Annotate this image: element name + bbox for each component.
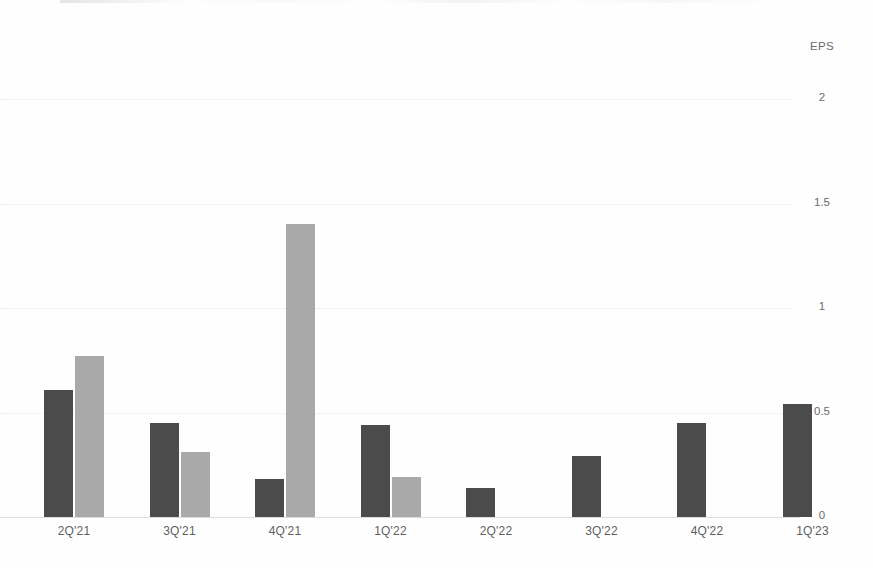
x-tick-label: 3Q'21 (135, 524, 225, 538)
x-tick-label: 3Q'22 (557, 524, 647, 538)
y-tick-label: 0.5 (800, 405, 844, 417)
bar-group (466, 60, 526, 517)
y-axis: EPS 00.511.52 (800, 0, 873, 568)
bar[interactable] (150, 423, 179, 517)
bar-group (572, 60, 632, 517)
bar[interactable] (75, 356, 104, 517)
y-axis-title: EPS (800, 40, 844, 52)
x-tick-label: 4Q'21 (240, 524, 330, 538)
bar[interactable] (466, 488, 495, 517)
bar[interactable] (255, 479, 284, 517)
x-tick-label: 1Q'23 (768, 524, 858, 538)
x-tick-label: 1Q'22 (346, 524, 436, 538)
x-axis-line (0, 517, 800, 518)
bar-group (255, 60, 315, 517)
x-tick-label: 2Q'21 (29, 524, 119, 538)
bar-group (677, 60, 737, 517)
bar[interactable] (677, 423, 706, 517)
y-tick-label: 1.5 (800, 196, 844, 208)
scan-artifact (60, 0, 780, 3)
bar[interactable] (572, 456, 601, 517)
eps-bar-chart: EPS 00.511.52 2Q'213Q'214Q'211Q'222Q'223… (0, 0, 873, 568)
bar-group (150, 60, 210, 517)
y-tick-label: 2 (800, 91, 844, 103)
plot-area (0, 60, 790, 517)
bar[interactable] (286, 224, 315, 517)
bar[interactable] (181, 452, 210, 517)
bar-group (361, 60, 421, 517)
y-tick-label: 1 (800, 300, 844, 312)
bar[interactable] (361, 425, 390, 517)
x-axis: 2Q'213Q'214Q'211Q'222Q'223Q'224Q'221Q'23 (0, 524, 800, 554)
x-tick-label: 2Q'22 (451, 524, 541, 538)
bar[interactable] (44, 390, 73, 517)
x-tick-label: 4Q'22 (662, 524, 752, 538)
y-tick-label: 0 (800, 509, 844, 521)
bar-group (44, 60, 104, 517)
bar[interactable] (392, 477, 421, 517)
